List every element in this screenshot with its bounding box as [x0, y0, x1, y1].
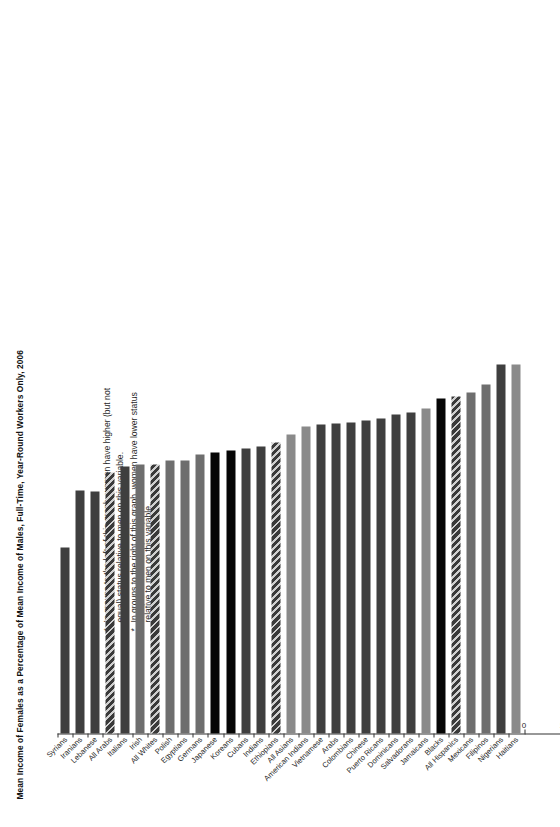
category-tick — [373, 733, 374, 737]
bar — [90, 491, 99, 733]
category-tick — [343, 733, 344, 737]
category-tick — [102, 733, 103, 737]
bar — [210, 452, 219, 733]
bar — [316, 424, 325, 733]
bar-row: Cubans — [238, 94, 253, 733]
bar — [75, 490, 84, 733]
bar — [180, 460, 189, 733]
bar — [150, 464, 159, 733]
bar — [256, 446, 265, 733]
category-tick — [223, 733, 224, 737]
bar — [451, 396, 460, 733]
category-tick — [388, 733, 389, 737]
value-tick: 0 — [524, 733, 525, 734]
category-tick — [433, 733, 434, 737]
category-tick — [253, 733, 254, 737]
bar-row: Dominicans — [388, 94, 403, 733]
category-tick — [403, 733, 404, 737]
bar — [60, 547, 69, 733]
category-tick — [162, 733, 163, 737]
category-tick — [207, 733, 208, 737]
bar-row: Syrians — [57, 94, 72, 733]
bar-row: Puerto Ricans — [373, 94, 388, 733]
bar-row: Blacks — [433, 94, 448, 733]
bar-row: Jamaicans — [418, 94, 433, 733]
bar — [286, 434, 295, 733]
category-tick — [57, 733, 58, 737]
category-tick — [87, 733, 88, 737]
category-tick — [132, 733, 133, 737]
bar — [331, 423, 340, 733]
bar — [466, 392, 475, 733]
bar-series: SyriansIraniansLebaneseAll ArabsItalians… — [57, 94, 524, 733]
category-tick — [192, 733, 193, 737]
category-tick — [493, 733, 494, 737]
bar-row: Arabs — [328, 94, 343, 733]
category-tick — [328, 733, 329, 737]
bar — [346, 422, 355, 733]
bar — [165, 460, 174, 733]
value-tick-label: 0 — [521, 721, 525, 730]
bar — [135, 464, 144, 733]
category-tick — [177, 733, 178, 737]
bar — [271, 442, 280, 733]
category-tick — [478, 733, 479, 737]
bar-row: All Arabs — [102, 94, 117, 733]
bar-row: Iranians — [72, 94, 87, 733]
bar-row: Vietnamese — [313, 94, 328, 733]
bar-row: All Asians — [283, 94, 298, 733]
bar-row: Ethiopians — [268, 94, 283, 733]
category-tick — [147, 733, 148, 737]
category-tick — [463, 733, 464, 737]
page-canvas: Mean Income of Females as a Percentage o… — [0, 0, 560, 827]
bar-row: Japanese — [207, 94, 222, 733]
category-tick — [448, 733, 449, 737]
value-axis-line — [524, 733, 560, 734]
bar-row: American Indians — [298, 94, 313, 733]
bar-row: Lebanese — [87, 94, 102, 733]
bar-row: Italians — [117, 94, 132, 733]
category-tick — [313, 733, 314, 737]
chart-title: Mean Income of Females as a Percentage o… — [14, 349, 24, 799]
category-tick — [72, 733, 73, 737]
plot-area: SyriansIraniansLebaneseAll ArabsItalians… — [57, 94, 524, 734]
bar — [301, 426, 310, 733]
bar-row: Indians — [253, 94, 268, 733]
bar-row: Nigerians — [493, 94, 508, 733]
bar-row: Irish — [132, 94, 147, 733]
category-tick — [508, 733, 509, 737]
bar — [481, 384, 490, 733]
category-tick — [298, 733, 299, 737]
category-tick — [268, 733, 269, 737]
bar — [496, 364, 505, 733]
bar — [391, 414, 400, 733]
bar-row: All Hispanics — [448, 94, 463, 733]
bar — [376, 418, 385, 733]
bar — [226, 450, 235, 733]
category-tick — [238, 733, 239, 737]
bar-row: Germans — [192, 94, 207, 733]
bar — [120, 466, 129, 733]
bar — [241, 448, 250, 733]
category-tick — [117, 733, 118, 737]
bar — [406, 412, 415, 733]
bar-row: Polish — [162, 94, 177, 733]
bar-row: Chinese — [358, 94, 373, 733]
bar-row: Haitians — [508, 94, 523, 733]
bar-row: Filipinos — [478, 94, 493, 733]
bar-row: Koreans — [223, 94, 238, 733]
bar — [105, 472, 114, 733]
category-tick — [418, 733, 419, 737]
bar-row: Egyptians — [177, 94, 192, 733]
chart-figure: Mean Income of Females as a Percentage o… — [0, 0, 560, 827]
bar-row: Mexicans — [463, 94, 478, 733]
category-tick — [283, 733, 284, 737]
bar — [421, 408, 430, 733]
bar-row: Colombians — [343, 94, 358, 733]
bar — [511, 364, 520, 733]
bar-row: All Whites — [147, 94, 162, 733]
bar — [436, 398, 445, 733]
bar — [361, 420, 370, 733]
category-tick — [358, 733, 359, 737]
bar — [195, 454, 204, 733]
